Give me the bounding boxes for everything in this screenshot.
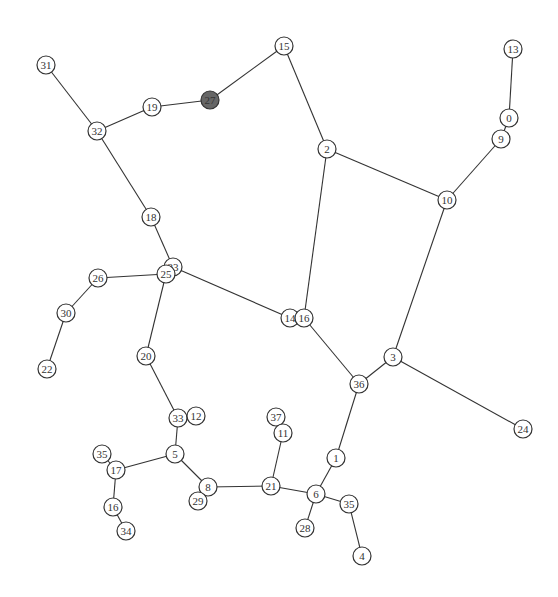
node-5[interactable]: 5 xyxy=(166,445,184,463)
node-30[interactable]: 30 xyxy=(57,304,75,322)
node-18[interactable]: 18 xyxy=(142,208,160,226)
edge-13-0 xyxy=(509,49,513,118)
node-label: 26 xyxy=(93,272,105,284)
node-17[interactable]: 17 xyxy=(107,461,125,479)
node-35[interactable]: 35 xyxy=(93,445,111,463)
node-label: 33 xyxy=(173,412,185,424)
node-36[interactable]: 36 xyxy=(350,375,368,393)
node-label: 14 xyxy=(285,312,297,324)
edge-9-10 xyxy=(447,139,501,200)
edge-3-24 xyxy=(393,357,523,429)
edge-15-2 xyxy=(284,46,327,149)
node-4[interactable]: 4 xyxy=(353,547,371,565)
node-label: 35 xyxy=(344,498,356,510)
node-label: 30 xyxy=(61,307,73,319)
node-label: 5 xyxy=(172,448,178,460)
node-label: 2 xyxy=(324,143,330,155)
node-label: 9 xyxy=(498,133,504,145)
node-label: 4 xyxy=(359,550,365,562)
node-32[interactable]: 32 xyxy=(88,122,106,140)
node-label: 3 xyxy=(390,351,396,363)
edge-16b-36 xyxy=(304,318,359,384)
node-29[interactable]: 29 xyxy=(189,492,207,510)
edge-23-14 xyxy=(173,267,290,318)
node-label: 15 xyxy=(279,40,291,52)
node-label: 32 xyxy=(92,125,103,137)
node-label: 37 xyxy=(271,411,283,423)
edge-1-36 xyxy=(336,384,359,458)
node-16[interactable]: 16 xyxy=(104,498,122,516)
node-3[interactable]: 3 xyxy=(384,348,402,366)
node-label: 13 xyxy=(508,43,520,55)
edge-32-18 xyxy=(97,131,151,217)
edges xyxy=(46,46,523,556)
node-label: 1 xyxy=(333,452,339,464)
node-37[interactable]: 37 xyxy=(267,408,285,426)
node-19[interactable]: 19 xyxy=(143,98,161,116)
edge-2-10 xyxy=(327,149,447,200)
node-24[interactable]: 24 xyxy=(514,420,532,438)
node-label: 16 xyxy=(108,501,120,513)
node-34[interactable]: 34 xyxy=(117,522,135,540)
node-16[interactable]: 16 xyxy=(295,309,313,327)
node-label: 0 xyxy=(506,112,512,124)
node-6[interactable]: 6 xyxy=(307,485,325,503)
node-1[interactable]: 1 xyxy=(327,449,345,467)
edge-20-33 xyxy=(146,356,178,418)
node-label: 20 xyxy=(141,350,153,362)
node-11[interactable]: 11 xyxy=(274,424,292,442)
edge-27-15 xyxy=(210,46,284,100)
node-33[interactable]: 33 xyxy=(169,409,187,427)
node-27[interactable]: 27 xyxy=(201,91,219,109)
node-label: 21 xyxy=(266,480,277,492)
edge-31-32 xyxy=(46,65,97,131)
node-label: 29 xyxy=(193,495,205,507)
node-label: 18 xyxy=(146,211,158,223)
network-graph: 3132192715213091018232526302214162033624… xyxy=(0,0,558,597)
node-label: 6 xyxy=(313,488,319,500)
node-label: 10 xyxy=(442,194,454,206)
node-label: 16 xyxy=(299,312,311,324)
node-20[interactable]: 20 xyxy=(137,347,155,365)
node-label: 17 xyxy=(111,464,123,476)
node-28[interactable]: 28 xyxy=(296,519,314,537)
node-21[interactable]: 21 xyxy=(262,477,280,495)
edge-2-16b xyxy=(304,149,327,318)
node-label: 31 xyxy=(41,59,52,71)
node-label: 8 xyxy=(205,481,211,493)
node-35[interactable]: 35 xyxy=(340,495,358,513)
node-label: 22 xyxy=(42,363,53,375)
node-label: 35 xyxy=(97,448,109,460)
node-31[interactable]: 31 xyxy=(37,56,55,74)
edge-10-3 xyxy=(393,200,447,357)
node-0[interactable]: 0 xyxy=(500,109,518,127)
node-26[interactable]: 26 xyxy=(89,269,107,287)
node-label: 11 xyxy=(278,427,289,439)
node-13[interactable]: 13 xyxy=(504,40,522,58)
node-label: 25 xyxy=(161,268,173,280)
node-12[interactable]: 12 xyxy=(187,407,205,425)
node-25[interactable]: 25 xyxy=(157,265,175,283)
nodes: 3132192715213091018232526302214162033624… xyxy=(37,37,532,565)
node-15[interactable]: 15 xyxy=(275,37,293,55)
node-2[interactable]: 2 xyxy=(318,140,336,158)
node-22[interactable]: 22 xyxy=(38,360,56,378)
node-label: 19 xyxy=(147,101,159,113)
node-label: 12 xyxy=(191,410,202,422)
node-10[interactable]: 10 xyxy=(438,191,456,209)
node-9[interactable]: 9 xyxy=(492,130,510,148)
node-label: 34 xyxy=(121,525,133,537)
node-label: 36 xyxy=(354,378,366,390)
edge-25-20 xyxy=(146,274,166,356)
node-label: 24 xyxy=(518,423,530,435)
node-label: 28 xyxy=(300,522,312,534)
node-label: 27 xyxy=(205,94,217,106)
edge-25-26 xyxy=(98,274,166,278)
